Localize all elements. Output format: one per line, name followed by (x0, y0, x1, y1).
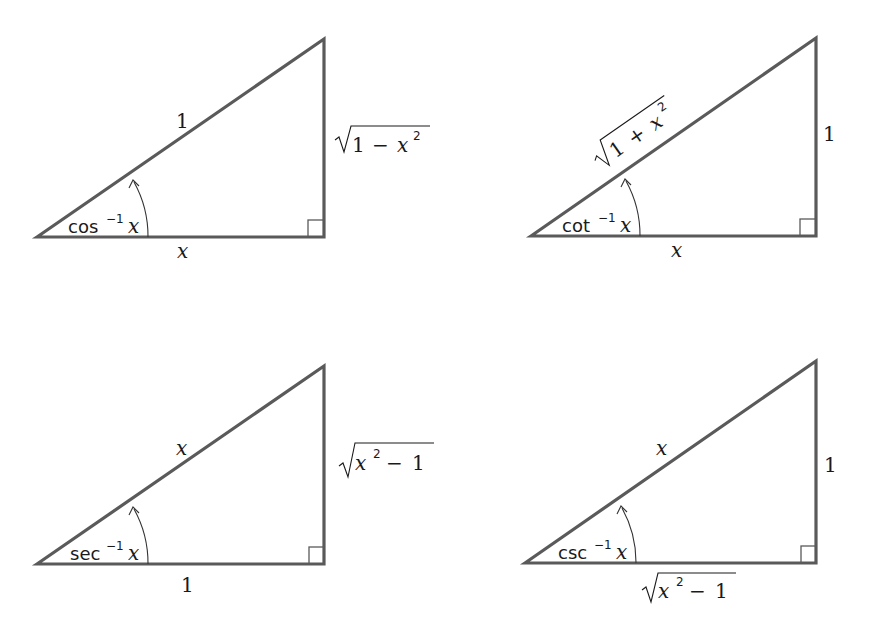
adjacent-label: x (671, 238, 682, 262)
angle-arrowhead (129, 180, 139, 188)
angle-argument-label: x (620, 213, 631, 237)
radicand-one: 1 (715, 579, 728, 603)
angle-function-label: csc (558, 542, 587, 563)
right-angle-marker (800, 219, 816, 236)
radicand-x: x (397, 133, 408, 157)
opposite-label: 1 (823, 122, 836, 146)
inverse-trig-triangles-figure: cos −1 x 1 x 1 − x 2 cot −1 x 1 + x 2 (0, 0, 873, 630)
triangle-arcsec: sec −1 x x 1 x 2 − 1 (37, 366, 434, 597)
opposite-label: 1 (824, 453, 837, 477)
triangle-arccsc: csc −1 x x 1 x 2 − 1 (525, 361, 837, 603)
radicand-minus: − (689, 579, 706, 603)
radicand-exponent: 2 (676, 575, 684, 589)
radicand-one: 1 (605, 136, 629, 163)
triangle-outline (525, 361, 816, 563)
adjacent-label: 1 (181, 573, 194, 597)
angle-arrowhead (621, 179, 631, 187)
triangle-outline (37, 39, 324, 237)
triangle-outline (37, 366, 324, 564)
radicand-plus: + (623, 121, 650, 150)
triangle-arccot: cot −1 x 1 + x 2 1 x (531, 38, 836, 262)
angle-function-label: sec (70, 543, 100, 564)
radicand-exponent: 2 (413, 129, 421, 143)
angle-arrowhead (129, 507, 139, 515)
angle-exponent-label: −1 (106, 212, 124, 226)
radicand-x: x (355, 451, 366, 475)
opposite-label-radical: 1 − x 2 (335, 126, 430, 157)
right-angle-marker (801, 546, 816, 563)
angle-exponent-label: −1 (598, 211, 616, 225)
adjacent-label-radical: x 2 − 1 (642, 573, 736, 603)
angle-argument-label: x (616, 540, 627, 564)
angle-exponent-label: −1 (106, 539, 124, 553)
radicand-x: x (658, 579, 669, 603)
angle-function-label: cot (562, 215, 590, 236)
adjacent-label: x (177, 239, 188, 263)
radicand-one: 1 (412, 451, 425, 475)
hypotenuse-label: x (176, 436, 187, 460)
angle-arrowhead (617, 506, 627, 514)
radicand-minus: − (386, 451, 403, 475)
angle-exponent-label: −1 (594, 538, 612, 552)
angle-function-label: cos (68, 216, 98, 237)
radicand-one: 1 (352, 133, 365, 157)
radicand-exponent: 2 (655, 99, 669, 115)
radicand-exponent: 2 (373, 447, 381, 461)
hypotenuse-label-radical: 1 + x 2 (587, 95, 681, 172)
right-angle-marker (309, 547, 324, 564)
hypotenuse-label: 1 (176, 109, 189, 133)
hypotenuse-label: x (656, 436, 667, 460)
radicand-minus: − (372, 133, 389, 157)
angle-argument-label: x (128, 214, 139, 238)
right-angle-marker (308, 220, 324, 237)
triangle-outline (531, 38, 816, 236)
opposite-label-radical: x 2 − 1 (339, 443, 434, 477)
angle-argument-label: x (128, 541, 139, 565)
triangle-arccos: cos −1 x 1 x 1 − x 2 (37, 39, 430, 263)
